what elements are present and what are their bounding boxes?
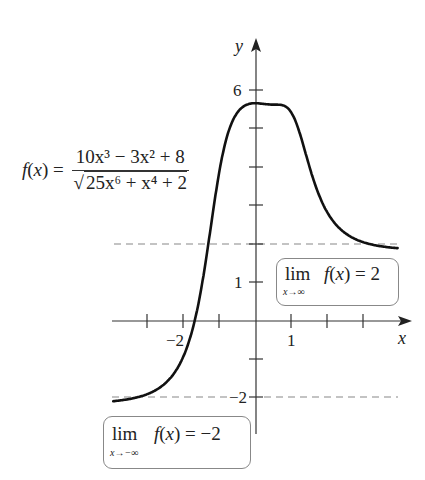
lim-label: lim bbox=[112, 423, 137, 445]
sqrt-icon: √ bbox=[73, 172, 83, 193]
lim-label: lim bbox=[285, 263, 310, 285]
y-tick-label-neg2: −2 bbox=[229, 388, 247, 407]
formula-lhs: f(x) = bbox=[22, 159, 64, 181]
lim-subscript: x→−∞ bbox=[110, 447, 138, 458]
formula-numerator: 10x³ − 3x² + 8 bbox=[72, 146, 189, 171]
y-axis bbox=[249, 38, 263, 434]
x-tick-label-1: 1 bbox=[287, 331, 296, 350]
limit-annotation-right: lim x→∞ f(x) = 2 bbox=[276, 258, 399, 306]
formula-denominator: √25x⁶ + x⁴ + 2 bbox=[73, 171, 187, 194]
formula-fraction: 10x³ − 3x² + 8 √25x⁶ + x⁴ + 2 bbox=[72, 146, 189, 194]
y-tick-label-1: 1 bbox=[234, 273, 243, 292]
y-tick-label-6: 6 bbox=[233, 81, 242, 100]
limit-annotation-left: lim x→−∞ f(x) = −2 bbox=[103, 416, 251, 469]
lim-expression: f(x) = 2 bbox=[324, 263, 380, 285]
lim-expression: f(x) = −2 bbox=[154, 423, 221, 445]
x-axis bbox=[112, 314, 412, 328]
graph-canvas: y x 6 1 −2 −2 1 bbox=[0, 0, 425, 480]
formula-radicand: 25x⁶ + x⁴ + 2 bbox=[84, 171, 187, 193]
function-formula: f(x) = 10x³ − 3x² + 8 √25x⁶ + x⁴ + 2 bbox=[22, 145, 189, 195]
x-tick-label-neg2: −2 bbox=[166, 331, 184, 350]
lim-subscript: x→∞ bbox=[283, 286, 305, 297]
y-axis-label: y bbox=[233, 36, 243, 56]
x-axis-label: x bbox=[397, 328, 406, 348]
